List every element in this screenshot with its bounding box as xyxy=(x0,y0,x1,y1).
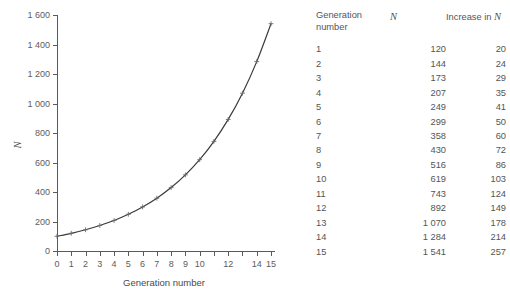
table-body: 1120202144243173294207355249416299507358… xyxy=(316,42,506,259)
cell-increase: 41 xyxy=(446,100,506,114)
cell-n: 1 284 xyxy=(390,230,446,244)
y-tick-label: 0 xyxy=(45,246,50,256)
cell-generation: 1 xyxy=(316,42,390,56)
x-tick-label: 15 xyxy=(266,259,276,269)
column-header-n: N xyxy=(390,10,446,42)
table-row: 112020 xyxy=(316,42,506,56)
data-point-marker xyxy=(269,21,274,26)
column-header-generation-line2: number xyxy=(316,22,348,32)
table-row: 317329 xyxy=(316,71,506,85)
cell-generation: 9 xyxy=(316,158,390,172)
column-header-increase-symbol: N xyxy=(494,11,501,22)
cell-n: 207 xyxy=(390,86,446,100)
x-tick-label: 1 xyxy=(69,259,74,269)
cell-increase: 29 xyxy=(446,71,506,85)
cell-generation: 12 xyxy=(316,201,390,215)
cell-increase: 103 xyxy=(446,172,506,186)
y-tick-label: 1 000 xyxy=(27,99,50,109)
column-header-n-symbol: N xyxy=(390,11,397,22)
x-tick-label: 10 xyxy=(195,259,205,269)
cell-generation: 4 xyxy=(316,86,390,100)
y-tick-label: 1 400 xyxy=(27,40,50,50)
y-tick-label: 1 600 xyxy=(27,10,50,20)
table-row: 214424 xyxy=(316,57,506,71)
data-point-marker xyxy=(112,218,117,223)
cell-increase: 257 xyxy=(446,245,506,259)
cell-n: 1 541 xyxy=(390,245,446,259)
x-tick-label: 9 xyxy=(183,259,188,269)
x-tick-label: 3 xyxy=(97,259,102,269)
table-row: 141 284214 xyxy=(316,230,506,244)
table-row: 951686 xyxy=(316,158,506,172)
cell-n: 743 xyxy=(390,187,446,201)
column-header-generation-line1: Generation xyxy=(316,10,362,20)
y-axis-title-label: N xyxy=(12,141,23,150)
table-row: 10619103 xyxy=(316,172,506,186)
data-point-marker xyxy=(97,223,102,228)
data-point-marker xyxy=(140,204,145,209)
column-header-increase: Increase in N xyxy=(446,10,506,42)
x-tick-label: 12 xyxy=(223,259,233,269)
cell-increase: 178 xyxy=(446,216,506,230)
cell-increase: 60 xyxy=(446,129,506,143)
y-tick-label: 800 xyxy=(35,128,50,138)
table-row: 420735 xyxy=(316,86,506,100)
y-tick-label: 200 xyxy=(35,217,50,227)
cell-increase: 35 xyxy=(446,86,506,100)
cell-n: 249 xyxy=(390,100,446,114)
y-tick-label: 600 xyxy=(35,158,50,168)
x-axis-title-label: Generation number xyxy=(123,277,205,288)
data-point-marker xyxy=(126,212,131,217)
growth-line-chart: 02004006008001 0001 2001 4001 6000123456… xyxy=(0,0,300,296)
table-row: 11743124 xyxy=(316,187,506,201)
cell-n: 144 xyxy=(390,57,446,71)
x-tick-label: 5 xyxy=(126,259,131,269)
x-tick-label: 4 xyxy=(112,259,117,269)
cell-increase: 86 xyxy=(446,158,506,172)
cell-generation: 15 xyxy=(316,245,390,259)
table-row: 151 541257 xyxy=(316,245,506,259)
cell-n: 358 xyxy=(390,129,446,143)
x-tick-label: 8 xyxy=(169,259,174,269)
column-header-generation: Generation number xyxy=(316,10,390,42)
cell-increase: 20 xyxy=(446,42,506,56)
chart-panel: 02004006008001 0001 2001 4001 6000123456… xyxy=(0,0,300,296)
cell-generation: 11 xyxy=(316,187,390,201)
x-tick-label: 0 xyxy=(54,259,59,269)
cell-increase: 50 xyxy=(446,114,506,128)
x-tick-label: 2 xyxy=(83,259,88,269)
table-row: 524941 xyxy=(316,100,506,114)
data-point-marker xyxy=(240,91,245,96)
cell-generation: 14 xyxy=(316,230,390,244)
cell-n: 430 xyxy=(390,143,446,157)
cell-generation: 6 xyxy=(316,114,390,128)
column-header-increase-prefix: Increase in xyxy=(446,12,494,22)
cell-generation: 7 xyxy=(316,129,390,143)
table-row: 131 070178 xyxy=(316,216,506,230)
data-point-marker xyxy=(69,231,74,236)
table-row: 843072 xyxy=(316,143,506,157)
data-table-panel: Generation number N Increase in N 112020… xyxy=(316,10,506,259)
x-tick-label: 7 xyxy=(154,259,159,269)
cell-increase: 149 xyxy=(446,201,506,215)
cell-n: 1 070 xyxy=(390,216,446,230)
cell-increase: 24 xyxy=(446,57,506,71)
table-header-row: Generation number N Increase in N xyxy=(316,10,506,42)
cell-generation: 13 xyxy=(316,216,390,230)
x-tick-label: 6 xyxy=(140,259,145,269)
cell-generation: 5 xyxy=(316,100,390,114)
cell-n: 892 xyxy=(390,201,446,215)
data-point-marker xyxy=(55,234,60,239)
x-tick-label: 14 xyxy=(252,259,262,269)
y-tick-label: 1 200 xyxy=(27,69,50,79)
cell-n: 516 xyxy=(390,158,446,172)
cell-generation: 8 xyxy=(316,143,390,157)
cell-n: 299 xyxy=(390,114,446,128)
cell-n: 173 xyxy=(390,71,446,85)
table-row: 735860 xyxy=(316,129,506,143)
growth-curve xyxy=(57,24,271,237)
table-row: 629950 xyxy=(316,114,506,128)
cell-generation: 2 xyxy=(316,57,390,71)
table-row: 12892149 xyxy=(316,201,506,215)
cell-generation: 3 xyxy=(316,71,390,85)
